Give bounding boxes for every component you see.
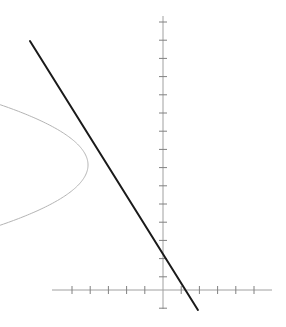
plot-background [0,0,286,327]
plot-svg [0,0,286,327]
plot-canvas [0,0,286,327]
